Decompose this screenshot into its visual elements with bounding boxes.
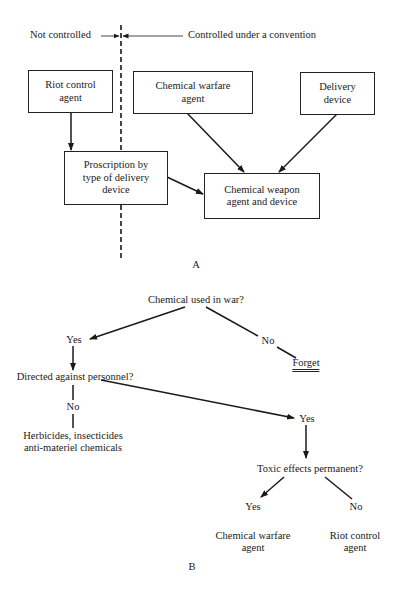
result-herbicides-line1: Herbicides, insecticides — [23, 430, 123, 442]
answer-yes-personnel: Yes — [299, 413, 314, 425]
question-directed-against-personnel: Directed against personnel? — [17, 371, 134, 383]
edge-root-to-yes — [90, 307, 185, 339]
box-line: type of delivery — [83, 172, 149, 185]
question-toxic-effects-permanent: Toxic effects permanent? — [257, 463, 363, 475]
panel-label-a: A — [192, 259, 200, 270]
panel-label-b: B — [188, 561, 195, 572]
box-line: device — [83, 184, 149, 197]
proscription-by-delivery-device-box: Proscription by type of delivery device — [64, 151, 168, 205]
edge-toxic-to-no — [325, 477, 352, 499]
box-line: Chemical weapon — [224, 184, 300, 197]
edge-personnel-to-yes — [101, 380, 294, 418]
box-line: Delivery — [319, 81, 356, 94]
not-controlled-label: Not controlled — [30, 29, 91, 41]
answer-no-personnel: No — [67, 401, 80, 413]
edge-warfare-to-weapon — [187, 113, 244, 172]
result-chemical-warfare-line1: Chemical warfare — [216, 530, 291, 542]
result-herbicides-line2: anti-materiel chemicals — [24, 442, 122, 454]
edge-proscription-to-weapon — [167, 177, 203, 194]
result-riot-control-line1: Riot control — [330, 530, 380, 542]
edge-toxic-to-yes — [261, 477, 284, 497]
answer-no-used-in-war: No — [262, 335, 275, 347]
box-line: agent and device — [224, 196, 300, 209]
box-line: device — [319, 94, 356, 107]
result-forget: Forget — [292, 357, 319, 369]
forget-label: Forget — [292, 357, 319, 372]
chemical-warfare-agent-box: Chemical warfare agent — [133, 71, 253, 114]
edge-root-to-no — [206, 307, 258, 336]
edge-delivery-to-weapon — [279, 114, 337, 172]
answer-yes-used-in-war: Yes — [66, 334, 81, 346]
box-line: agent — [45, 92, 95, 105]
box-line: agent — [156, 93, 231, 106]
box-line: Riot control — [45, 79, 95, 92]
result-riot-control-line2: agent — [344, 542, 367, 554]
box-line: Proscription by — [83, 159, 149, 172]
chemical-weapon-agent-device-box: Chemical weapon agent and device — [204, 173, 320, 219]
riot-control-agent-box: Riot control agent — [28, 70, 113, 113]
question-chemical-used-in-war: Chemical used in war? — [148, 294, 244, 306]
controlled-under-convention-label: Controlled under a convention — [188, 29, 316, 41]
box-line: Chemical warfare — [156, 80, 231, 93]
answer-no-toxic: No — [350, 501, 363, 513]
result-chemical-warfare-line2: agent — [242, 542, 265, 554]
answer-yes-toxic: Yes — [245, 501, 260, 513]
delivery-device-box: Delivery device — [300, 72, 375, 115]
